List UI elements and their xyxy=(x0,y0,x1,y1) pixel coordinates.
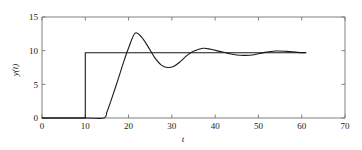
x-tick-label: 20 xyxy=(124,121,134,131)
x-axis-title: t xyxy=(182,134,185,144)
y-axis-title: y(t) xyxy=(10,64,20,78)
x-tick-label: 60 xyxy=(297,121,307,131)
data-series xyxy=(42,33,306,119)
x-tick-label: 0 xyxy=(40,121,45,131)
step-response-plot: 010203040506070051015 t y(t) xyxy=(0,0,362,150)
axes xyxy=(42,17,345,118)
chart-figure: 010203040506070051015 t y(t) xyxy=(0,0,362,150)
tick-marks xyxy=(42,17,345,118)
x-tick-label: 70 xyxy=(341,121,351,131)
x-tick-label: 10 xyxy=(81,121,91,131)
y-tick-label: 0 xyxy=(34,113,39,123)
y-tick-label: 10 xyxy=(29,46,39,56)
x-tick-label: 40 xyxy=(211,121,221,131)
x-tick-label: 50 xyxy=(254,121,264,131)
y-tick-label: 15 xyxy=(29,12,39,22)
y-tick-label: 5 xyxy=(34,80,39,90)
reference-step-line xyxy=(42,53,306,118)
system-response-line xyxy=(42,33,306,119)
tick-labels: 010203040506070051015 xyxy=(29,12,350,131)
x-tick-label: 30 xyxy=(167,121,177,131)
